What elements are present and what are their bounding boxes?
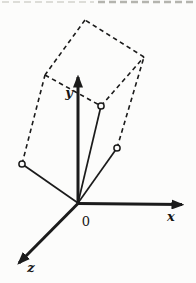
scanned-figure-page: xyz0	[0, 0, 196, 283]
dashed-edge-b-ab	[117, 57, 144, 148]
dashed-edge-top-ac	[45, 20, 85, 75]
z-axis-label: z	[26, 260, 35, 275]
dashed-edge-c-ac	[22, 75, 45, 164]
point-b-circle	[114, 145, 120, 151]
dashed-edge-a-ab	[101, 57, 144, 106]
dashed-edge-ab-top	[85, 20, 144, 57]
coordinate-diagram: xyz0	[0, 0, 196, 283]
z-axis	[19, 204, 78, 264]
vector-a	[78, 106, 101, 203]
y-axis-label: y	[64, 85, 74, 100]
point-a-circle	[98, 103, 104, 109]
x-axis	[78, 204, 182, 205]
point-c-circle	[19, 161, 25, 167]
origin-label: 0	[82, 214, 90, 229]
dashed-edge-ac-a	[45, 75, 101, 106]
x-axis-label: x	[166, 209, 175, 224]
vector-c	[22, 164, 78, 203]
